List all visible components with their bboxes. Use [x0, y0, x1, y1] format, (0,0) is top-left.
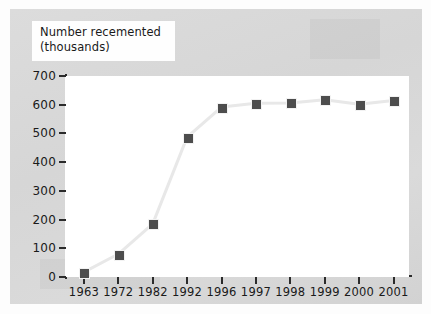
x-tick-mark-2001	[393, 277, 395, 284]
data-point-1992	[183, 133, 194, 144]
x-tick-label-1997: 1997	[241, 285, 271, 299]
data-point-2001	[389, 96, 400, 107]
x-tick-label-1972: 1972	[103, 285, 133, 299]
x-tick-mark-1982	[152, 277, 154, 284]
y-tick-label: 100	[32, 241, 56, 255]
data-point-1982	[148, 219, 159, 230]
y-tick-label: 600	[32, 98, 56, 112]
x-tick-mark-1999	[324, 277, 326, 284]
data-point-1996	[217, 103, 228, 114]
x-tick-mark-1992	[186, 277, 188, 284]
x-tick-label-2001: 2001	[378, 285, 408, 299]
y-tick-label: 0	[48, 270, 56, 284]
x-tick-label-1963: 1963	[69, 285, 99, 299]
figure-card: Number recemented (thousands) 0100200300…	[10, 9, 422, 304]
data-point-1998	[286, 98, 297, 109]
data-point-1972	[114, 250, 125, 261]
x-tick-label-1992: 1992	[172, 285, 202, 299]
y-tick-label: 500	[32, 126, 56, 140]
x-tick-mark-1996	[221, 277, 223, 284]
x-tick-mark-2000	[358, 277, 360, 284]
x-tick-label-1999: 1999	[310, 285, 340, 299]
chart-plot-wrapper: 0100200300400500600700 19631972198219921…	[10, 9, 422, 304]
y-tick-label: 300	[32, 184, 56, 198]
y-tick-label: 400	[32, 155, 56, 169]
y-tick-label: 200	[32, 213, 56, 227]
data-point-1997	[251, 99, 262, 110]
x-tick-label-1982: 1982	[138, 285, 168, 299]
x-tick-mark-1998	[289, 277, 291, 284]
y-tick-label: 700	[32, 69, 56, 83]
x-tick-label-1998: 1998	[275, 285, 305, 299]
data-point-1963	[79, 268, 90, 279]
x-tick-mark-1997	[255, 277, 257, 284]
data-point-2000	[355, 100, 366, 111]
x-tick-label-2000: 2000	[344, 285, 374, 299]
x-tick-label-1996: 1996	[206, 285, 236, 299]
data-point-1999	[320, 95, 331, 106]
plot-area: 0100200300400500600700 19631972198219921…	[65, 76, 409, 277]
page: Number recemented (thousands) 0100200300…	[0, 0, 431, 314]
x-tick-mark-1972	[117, 277, 119, 284]
